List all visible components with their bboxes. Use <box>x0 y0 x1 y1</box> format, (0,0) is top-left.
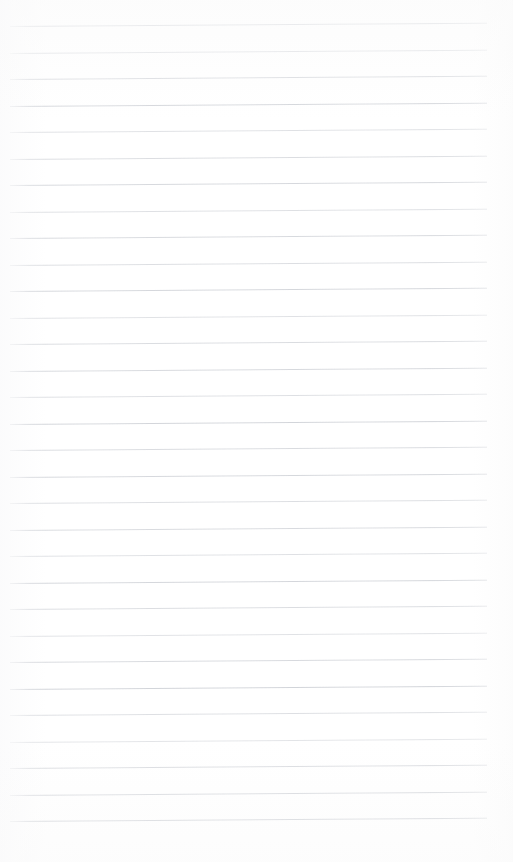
rule-line <box>10 632 487 636</box>
rule-line <box>10 23 487 27</box>
rule-line <box>10 447 487 451</box>
rule-line <box>10 420 487 424</box>
rule-line <box>10 367 487 371</box>
rule-line <box>10 155 487 159</box>
rule-line <box>10 76 487 80</box>
rule-line <box>10 314 487 318</box>
rule-line <box>10 341 487 345</box>
rule-line <box>10 791 487 795</box>
rule-line <box>10 738 487 742</box>
rule-line <box>10 102 487 106</box>
rule-line <box>10 182 487 186</box>
rule-line <box>10 553 487 557</box>
rule-line <box>10 261 487 265</box>
rule-line <box>10 659 487 663</box>
rule-line <box>10 765 487 769</box>
rule-line <box>10 526 487 530</box>
rule-line <box>10 49 487 53</box>
rule-line <box>10 394 487 398</box>
rule-line <box>10 606 487 610</box>
rule-line <box>10 235 487 239</box>
ruled-paper-page <box>0 0 513 862</box>
rule-line <box>10 579 487 583</box>
rule-line <box>10 818 487 822</box>
rule-line <box>10 473 487 477</box>
rule-line <box>10 500 487 504</box>
rule-line <box>10 208 487 212</box>
rule-line <box>10 685 487 689</box>
rule-line <box>10 288 487 292</box>
rule-line <box>10 129 487 133</box>
rule-line <box>10 712 487 716</box>
ruled-lines-group <box>0 0 513 862</box>
